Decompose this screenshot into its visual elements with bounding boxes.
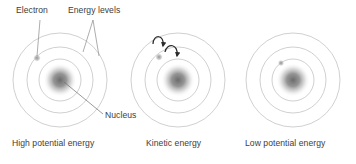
- energy-levels-leader-line-1: [83, 20, 93, 52]
- nucleus: [276, 63, 310, 97]
- transition-arrow-2: [165, 46, 177, 56]
- atom-low-potential: [246, 33, 340, 127]
- label-energy-levels: Energy levels: [68, 5, 120, 15]
- atom-kinetic: [131, 33, 225, 127]
- electron-dot: [155, 53, 163, 61]
- atom-energy-diagram: Electron Energy levels Nucleus High pote…: [0, 0, 356, 164]
- label-electron: Electron: [16, 5, 48, 15]
- atom-high-potential: [13, 33, 107, 127]
- transition-arrow-1: [153, 37, 163, 46]
- nucleus: [43, 63, 77, 97]
- nucleus-leader-line: [64, 82, 103, 114]
- electron-dot: [278, 60, 285, 67]
- caption-high-potential-energy: High potential energy: [12, 138, 94, 148]
- energy-levels-leader-line-2: [93, 20, 99, 56]
- caption-kinetic-energy: Kinetic energy: [146, 138, 201, 148]
- caption-low-potential-energy: Low potential energy: [245, 138, 325, 148]
- nucleus: [161, 63, 195, 97]
- label-nucleus: Nucleus: [105, 110, 136, 120]
